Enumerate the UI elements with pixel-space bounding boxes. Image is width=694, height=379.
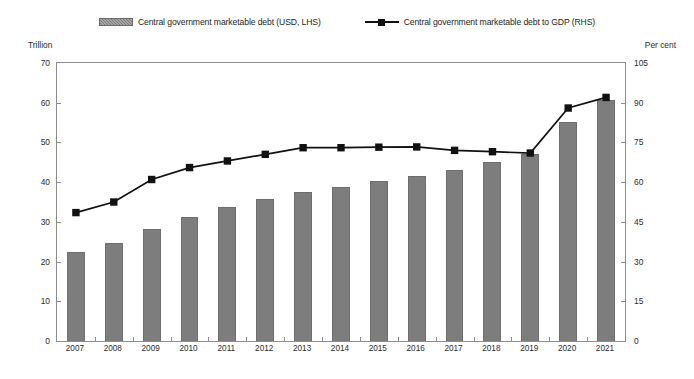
left-axis-tick-label: 20: [41, 258, 50, 266]
right-axis-tick-label: 15: [634, 297, 643, 305]
line-marker[interactable]: 2013: 73: [299, 144, 306, 151]
x-axis-tick-mark: [284, 337, 285, 341]
left-axis-tick-label: 10: [41, 297, 50, 305]
legend-entry-line-series: Central government marketable debt to GD…: [365, 17, 595, 27]
right-axis-tick-label: 45: [634, 218, 643, 226]
line-marker-swatch-icon: [365, 18, 399, 27]
line-marker[interactable]: 2012: 70.5: [262, 151, 269, 158]
x-axis-tick-mark: [133, 337, 134, 341]
right-axis-tick-label: 105: [634, 59, 648, 67]
line-marker[interactable]: 2008: 52.5: [110, 198, 117, 205]
x-axis-tick-label: 2009: [132, 344, 170, 360]
line-marker[interactable]: 2015: 73.2: [375, 143, 382, 150]
plot-area: 010203040506070 0153045607590105 2007: 4…: [56, 62, 626, 342]
line-marker[interactable]: 2020: 88: [565, 104, 572, 111]
line-marker[interactable]: 2016: 73.3: [413, 143, 420, 150]
line-marker[interactable]: 2014: 73: [337, 144, 344, 151]
left-axis-tick-label: 60: [41, 99, 50, 107]
line-marker[interactable]: 2009: 61: [148, 176, 155, 183]
line-marker[interactable]: 2007: 48.5: [72, 209, 79, 216]
x-axis-tick-mark: [436, 337, 437, 341]
x-axis-tick-mark: [208, 337, 209, 341]
legend-entry-bar-series: Central government marketable debt (USD,…: [99, 17, 321, 27]
right-axis-tick-label: 90: [634, 99, 643, 107]
right-axis-tick-label: 0: [634, 337, 639, 345]
line-marker[interactable]: 2021: 92: [602, 94, 609, 101]
right-axis-tick-label: 30: [634, 258, 643, 266]
x-axis-tick-label: 2014: [321, 344, 359, 360]
x-axis-tick-labels: 2007200820092010201120122013201420152016…: [56, 344, 624, 360]
line-series-group: 2007: 48.52008: 52.52009: 612010: 65.520…: [57, 63, 625, 341]
left-axis-tick-label: 50: [41, 138, 50, 146]
right-axis-tick-label: 75: [634, 138, 643, 146]
left-axis-tick-label: 40: [41, 178, 50, 186]
line-path: [76, 97, 606, 212]
chart-figure: Central government marketable debt (USD,…: [0, 0, 694, 379]
chart-legend: Central government marketable debt (USD,…: [0, 14, 694, 30]
x-axis-tick-label: 2020: [548, 344, 586, 360]
line-marker[interactable]: 2017: 72: [451, 147, 458, 154]
x-axis-tick-label: 2008: [94, 344, 132, 360]
line-marker[interactable]: 2010: 65.5: [186, 164, 193, 171]
x-axis-tick-label: 2010: [170, 344, 208, 360]
line-marker[interactable]: 2019: 71: [527, 149, 534, 156]
x-axis-tick-label: 2012: [245, 344, 283, 360]
x-axis-tick-label: 2017: [435, 344, 473, 360]
x-axis-tick-label: 2007: [56, 344, 94, 360]
x-axis-tick-label: 2018: [472, 344, 510, 360]
bar-swatch-icon: [99, 18, 133, 26]
x-axis-tick-label: 2013: [283, 344, 321, 360]
x-axis-tick-label: 2016: [397, 344, 435, 360]
x-axis-tick-mark: [322, 337, 323, 341]
x-axis-tick-mark: [360, 337, 361, 341]
x-axis-tick-mark: [171, 337, 172, 341]
legend-label-bar-series: Central government marketable debt (USD,…: [138, 17, 321, 27]
left-axis-unit-label: Trillion: [28, 40, 52, 50]
x-axis-tick-label: 2019: [510, 344, 548, 360]
x-axis-tick-label: 2021: [586, 344, 624, 360]
x-axis-tick-label: 2015: [359, 344, 397, 360]
x-axis-tick-mark: [246, 337, 247, 341]
left-axis-tick-label: 0: [45, 337, 50, 345]
x-axis-tick-mark: [511, 337, 512, 341]
x-axis-tick-label: 2011: [207, 344, 245, 360]
right-axis-unit-label: Per cent: [645, 40, 676, 50]
legend-label-line-series: Central government marketable debt to GD…: [404, 17, 595, 27]
left-axis-tick-label: 30: [41, 218, 50, 226]
x-axis-tick-mark: [474, 337, 475, 341]
line-marker[interactable]: 2011: 68: [224, 157, 231, 164]
x-axis-tick-mark: [398, 337, 399, 341]
left-axis-tick-label: 70: [41, 59, 50, 67]
x-axis-tick-mark: [95, 337, 96, 341]
line-marker[interactable]: 2018: 71.5: [489, 148, 496, 155]
x-axis-tick-mark: [549, 337, 550, 341]
x-axis-tick-mark: [587, 337, 588, 341]
right-axis-tick-label: 60: [634, 178, 643, 186]
